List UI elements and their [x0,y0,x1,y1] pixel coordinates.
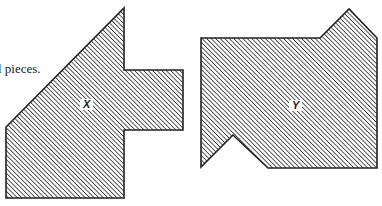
shape-x [6,8,183,198]
shape-y-label: Y [289,100,302,111]
shapes-svg [0,0,382,206]
shape-y [201,9,377,168]
shape-x-label: X [80,99,93,110]
